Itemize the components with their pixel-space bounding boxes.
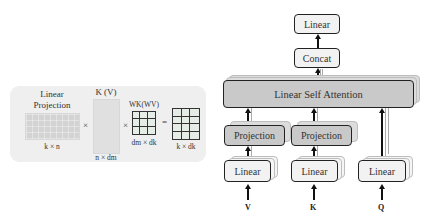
linear-projection-title-line1: Linear (20, 89, 84, 99)
weight-matrix (132, 111, 156, 135)
multiply-symbol-1: × (83, 120, 88, 130)
projection-matrix-dims: k × n (30, 142, 74, 152)
result-matrix-dims: k × dk (168, 142, 204, 152)
arrow-q-input (381, 188, 383, 200)
kv-matrix (93, 99, 120, 154)
multiply-symbol-2: × (123, 120, 128, 130)
input-v-label: V (245, 203, 251, 212)
equals-symbol: = (162, 117, 167, 127)
weight-matrix-title: WK(WV) (128, 100, 160, 110)
weight-matrix-dims: dm × dk (128, 138, 160, 148)
projection-matrix (25, 113, 80, 140)
output-linear-box: Linear (294, 14, 340, 34)
input-q-label: Q (378, 203, 384, 212)
concat-box: Concat (294, 48, 340, 68)
linear-projection-title-line2: Projection (20, 100, 84, 110)
arrow-linear-q-to-attention (381, 112, 383, 160)
linear-k-box: Linear (291, 160, 338, 182)
arrow-k-input (313, 188, 315, 200)
input-k-label: K (310, 203, 316, 212)
ghost-line (388, 108, 389, 154)
linear-self-attention-box: Linear Self Attention (223, 80, 414, 108)
projection-v-box: Projection (224, 125, 285, 146)
result-matrix (172, 108, 200, 140)
linear-v-box: Linear (224, 160, 271, 182)
kv-matrix-title: K (V) (88, 87, 124, 97)
linear-q-box: Linear (358, 160, 406, 182)
kv-matrix-dims: n × dm (88, 153, 124, 163)
arrow-concat-to-linear (317, 38, 319, 48)
arrow-v-input (247, 188, 249, 200)
ghost-line (385, 108, 386, 156)
projection-k-box: Projection (291, 125, 352, 146)
